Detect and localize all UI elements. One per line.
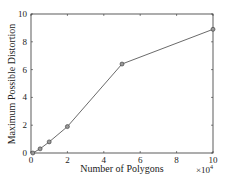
y-tick-label: 2	[23, 120, 28, 130]
plot-frame	[31, 14, 213, 153]
y-tick-label: 4	[23, 92, 28, 102]
x-tick-label: 2	[65, 155, 70, 165]
x-axis-title: Number of Polygons	[80, 163, 163, 174]
x-tick-label: 0	[29, 155, 34, 165]
series-line	[33, 29, 213, 153]
y-tick-labels: 0246810	[18, 9, 28, 158]
data-point-marker	[65, 125, 69, 129]
x-multiplier: ×104	[196, 164, 213, 175]
y-tick-label: 8	[23, 37, 28, 47]
x-tick-label: 8	[174, 155, 179, 165]
data-point-marker	[31, 151, 35, 155]
axis-ticks	[31, 14, 213, 153]
y-tick-label: 6	[23, 65, 28, 75]
data-point-marker	[120, 62, 124, 66]
y-tick-label: 0	[23, 148, 28, 158]
data-markers	[31, 27, 215, 155]
line-chart: 0246810 0246810 Number of Polygons Maxim…	[0, 0, 227, 187]
data-point-marker	[211, 27, 215, 31]
y-tick-label: 10	[18, 9, 28, 19]
y-axis-title: Maximum Possible Distortion	[6, 24, 17, 145]
data-point-marker	[38, 147, 42, 151]
data-point-marker	[47, 140, 51, 144]
